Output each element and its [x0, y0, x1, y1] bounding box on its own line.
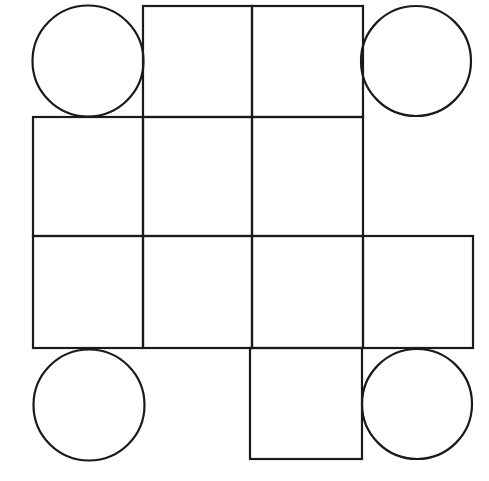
figure-canvas [0, 0, 489, 481]
canvas-background [0, 0, 489, 481]
net-diagram [0, 0, 489, 481]
